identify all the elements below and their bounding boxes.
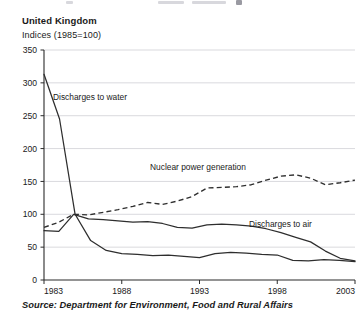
- annotation-discharges-to-water: Discharges to water: [53, 92, 127, 102]
- svg-text:2003: 2003: [336, 286, 355, 295]
- chart-units-label: Indices (1985=100): [22, 30, 101, 40]
- svg-text:50: 50: [27, 242, 37, 252]
- svg-text:350: 350: [23, 45, 38, 55]
- svg-text:100: 100: [23, 209, 38, 219]
- chart-subtitle-country: United Kingdom: [22, 15, 97, 26]
- chart-figure: United Kingdom Indices (1985=100) 050100…: [0, 0, 362, 317]
- annotation-discharges-to-air: Discharges to air: [249, 219, 312, 229]
- svg-text:200: 200: [23, 144, 38, 154]
- svg-text:150: 150: [23, 177, 38, 187]
- x-axis-tick-labels: 19831988199319982003: [44, 286, 355, 295]
- annotation-nuclear-power-generation: Nuclear power generation: [150, 162, 246, 172]
- source-attribution: Source: Department for Environment, Food…: [22, 300, 293, 310]
- svg-text:300: 300: [23, 78, 38, 88]
- svg-text:1993: 1993: [190, 286, 209, 295]
- svg-text:0: 0: [32, 275, 37, 285]
- chart-plot-area: 050100150200250300350 198319881993199820…: [0, 0, 362, 295]
- svg-text:1983: 1983: [44, 286, 63, 295]
- gridlines-group: [44, 50, 355, 247]
- svg-text:1998: 1998: [268, 286, 287, 295]
- svg-text:250: 250: [23, 111, 38, 121]
- svg-text:1988: 1988: [112, 286, 131, 295]
- y-axis-tick-labels: 050100150200250300350: [23, 45, 38, 285]
- page-bleed-artifact: [0, 0, 362, 11]
